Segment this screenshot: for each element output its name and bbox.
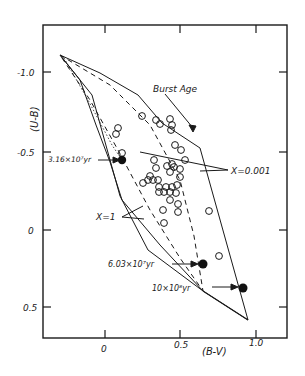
color-color-diagram: -1.0 -0.5 0 0.5 0 0.5 1.0 (B-V) (U-B): [0, 0, 305, 376]
annotation-x-1: X=1: [95, 212, 115, 222]
annotation-age-1e9: 10×10⁸yr: [152, 284, 191, 293]
y-tick-label: -0.5: [17, 148, 35, 158]
y-ticks: [43, 72, 287, 307]
y-tick-labels: -1.0 -0.5 0 0.5: [17, 68, 38, 313]
x-tick-label: 0: [101, 344, 107, 354]
track-early: [64, 58, 122, 160]
annotation-x-0.001: X=0.001: [230, 166, 270, 176]
x-tick-label: 1.0: [249, 338, 264, 348]
y-axis-label: (U-B): [29, 106, 40, 132]
envelope-line: [60, 55, 248, 320]
annotation-burst-age: Burst Age: [153, 84, 198, 94]
annotation-age-6.03e7: 6.03×10⁷yr: [108, 260, 155, 269]
annotation-age-3.16e7: 3.16×10⁷yr: [48, 155, 92, 164]
y-tick-label: 0.5: [23, 303, 38, 313]
x-axis-label: (B-V): [202, 346, 227, 357]
y-tick-label: 0: [28, 226, 34, 236]
x-tick-label: 0.5: [174, 340, 189, 350]
y-tick-label: -1.0: [17, 68, 35, 78]
x-tick-labels: 0 0.5 1.0: [101, 338, 264, 354]
model-points: [118, 156, 248, 293]
